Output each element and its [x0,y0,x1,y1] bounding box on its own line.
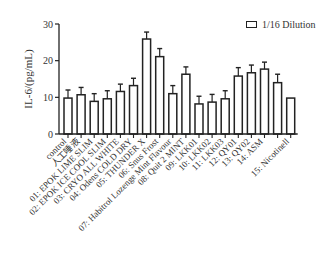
legend-label: 1/16 Dilution [262,19,316,30]
bar [208,102,216,134]
bar [64,98,72,134]
bar [130,86,138,134]
bar-chart: 0102030 control人工唾液01: EPOK LIME SLIM02:… [0,0,333,273]
legend-swatch-icon [246,21,257,28]
bar [261,69,269,134]
bar [221,99,229,134]
bar [90,101,98,134]
bar [116,91,124,134]
bar [234,76,242,134]
bar [103,99,111,134]
y-tick-label: 10 [43,92,53,103]
bar [182,74,190,134]
bar [77,95,85,134]
bar [274,83,282,134]
y-tick-label: 0 [48,129,53,140]
y-axis-label: IL-6/(pg/mL) [22,49,35,109]
bar [247,73,255,134]
bar [143,39,151,134]
bars [64,32,295,134]
bar [287,98,295,134]
bar [156,57,164,134]
y-axis: 0102030 [43,19,59,140]
bar [169,94,177,134]
x-axis: control人工唾液01: EPOK LIME SLIM02: EPOK IC… [27,134,298,233]
y-tick-label: 30 [43,19,53,30]
bar [195,104,203,134]
legend: 1/16 Dilution [246,19,316,30]
y-tick-label: 20 [43,55,53,66]
